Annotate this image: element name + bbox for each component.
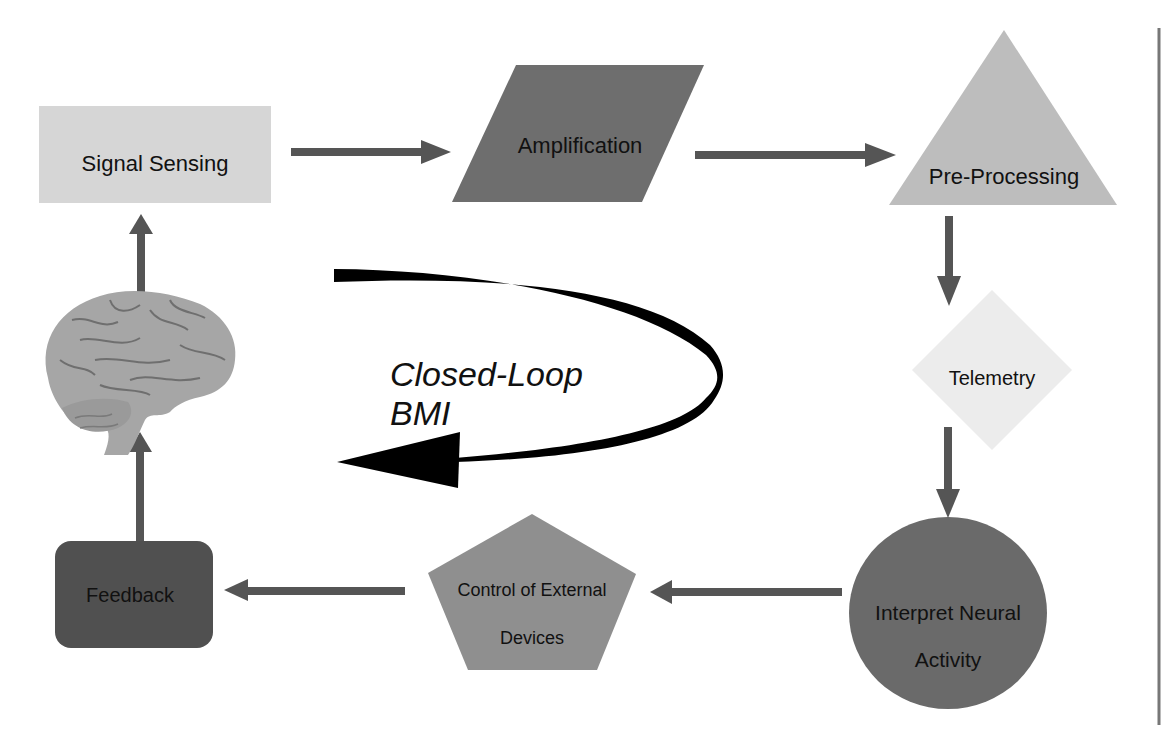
control-label-line1: Control of External bbox=[457, 580, 606, 600]
signal-sensing-label: Signal Sensing bbox=[82, 151, 229, 176]
arrow-brain-to-signal-sensing bbox=[129, 214, 153, 292]
node-telemetry: Telemetry bbox=[912, 290, 1072, 450]
bmi-diagram: Signal Sensing Amplification Pre-Process… bbox=[0, 0, 1162, 730]
control-label-line2: Devices bbox=[500, 628, 564, 648]
arrow-preprocessing-to-telemetry bbox=[937, 216, 961, 306]
node-interpret-neural-activity: Interpret Neural Activity bbox=[849, 517, 1047, 709]
node-pre-processing: Pre-Processing bbox=[889, 30, 1117, 205]
arrow-signal-to-amplification bbox=[291, 140, 451, 164]
interpret-label-line1: Interpret Neural bbox=[875, 601, 1021, 624]
pre-processing-label: Pre-Processing bbox=[929, 164, 1079, 189]
node-control-external-devices: Control of External Devices bbox=[428, 514, 636, 670]
interpret-label-line2: Activity bbox=[915, 648, 982, 671]
arrow-telemetry-to-interpret bbox=[936, 427, 960, 518]
arrow-amplification-to-preprocessing bbox=[695, 143, 896, 167]
amplification-label: Amplification bbox=[518, 133, 643, 158]
node-amplification: Amplification bbox=[452, 65, 704, 202]
arrow-interpret-to-control bbox=[650, 580, 842, 604]
arrow-control-to-feedback bbox=[224, 579, 405, 601]
diagram-title-line2: BMI bbox=[390, 394, 451, 432]
brain-icon bbox=[46, 291, 236, 455]
diagram-title-line1: Closed-Loop bbox=[390, 355, 583, 393]
node-feedback: Feedback bbox=[55, 541, 213, 648]
node-signal-sensing: Signal Sensing bbox=[39, 106, 271, 203]
telemetry-label: Telemetry bbox=[949, 367, 1036, 389]
feedback-label: Feedback bbox=[86, 584, 175, 606]
